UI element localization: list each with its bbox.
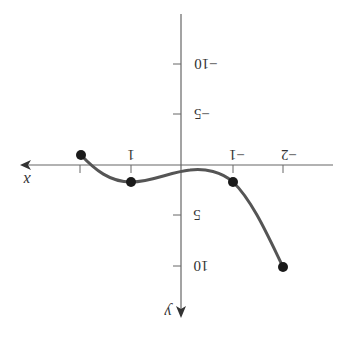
x-tick-label-neg1: −1 — [229, 147, 245, 163]
data-point — [278, 262, 288, 272]
function-curve — [81, 155, 283, 267]
x-axis-label: x — [23, 172, 31, 189]
y-tick-label-5: 5 — [193, 207, 201, 223]
data-point — [228, 177, 238, 187]
y-axis — [173, 14, 186, 318]
data-point — [76, 150, 86, 160]
x-tick-label-1: 1 — [127, 147, 135, 163]
data-point — [126, 177, 136, 187]
graph-figure: 1 −1 −2 −10 −5 5 10 x y — [0, 0, 343, 340]
y-tick-label-neg10: −10 — [194, 56, 217, 72]
y-tick-label-10: 10 — [194, 258, 209, 274]
y-axis-label: y — [164, 303, 174, 321]
x-tick-label-neg2: −2 — [281, 147, 297, 163]
y-tick-label-neg5: −5 — [194, 106, 210, 122]
plot-canvas: 1 −1 −2 −10 −5 5 10 x y — [0, 0, 343, 340]
